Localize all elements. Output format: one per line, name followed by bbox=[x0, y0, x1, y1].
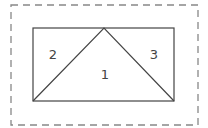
region-label-3: 3 bbox=[150, 47, 158, 62]
diagram-canvas: 1 2 3 bbox=[0, 0, 208, 128]
region-label-1: 1 bbox=[101, 67, 109, 82]
triangle bbox=[33, 28, 174, 101]
dashed-outer-border bbox=[11, 5, 198, 125]
inner-rectangle bbox=[33, 28, 174, 101]
region-label-2: 2 bbox=[49, 47, 57, 62]
